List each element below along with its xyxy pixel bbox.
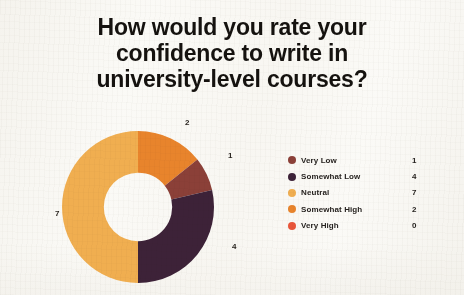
page-title: How would you rate your confidence to wr… [0, 14, 464, 92]
legend-swatch-somewhat-high [288, 205, 296, 213]
slice-label-somewhat-high: 2 [185, 118, 189, 127]
slice-label-very-low: 1 [228, 151, 232, 160]
legend-swatch-very-high [288, 222, 296, 230]
slide-canvas: How would you rate your confidence to wr… [0, 0, 464, 295]
legend-value-very-high: 0 [412, 221, 438, 230]
legend-item-somewhat-low[interactable]: Somewhat Low 4 [288, 168, 438, 184]
legend-swatch-somewhat-low [288, 173, 296, 181]
legend-item-somewhat-high[interactable]: Somewhat High 2 [288, 201, 438, 217]
donut-slice-neutral[interactable] [62, 131, 138, 283]
legend-swatch-neutral [288, 189, 296, 197]
title-line-1: How would you rate your [0, 14, 464, 40]
slice-label-somewhat-low: 4 [232, 242, 236, 251]
slice-label-neutral: 7 [55, 209, 59, 218]
legend-label-somewhat-low: Somewhat Low [301, 172, 412, 181]
legend-value-somewhat-high: 2 [412, 205, 438, 214]
legend-item-very-low[interactable]: Very Low 1 [288, 152, 438, 168]
donut-chart-svg [62, 130, 252, 285]
legend-label-somewhat-high: Somewhat High [301, 205, 412, 214]
donut-slice-somewhat-low[interactable] [138, 190, 214, 283]
legend-value-neutral: 7 [412, 188, 438, 197]
title-line-3: university-level courses? [0, 66, 464, 92]
donut-chart [62, 130, 252, 285]
legend-value-somewhat-low: 4 [412, 172, 438, 181]
legend-item-neutral[interactable]: Neutral 7 [288, 185, 438, 201]
legend-item-very-high[interactable]: Very High 0 [288, 218, 438, 234]
legend-label-very-low: Very Low [301, 156, 412, 165]
chart-legend: Very Low 1 Somewhat Low 4 Neutral 7 Some… [288, 152, 438, 234]
legend-value-very-low: 1 [412, 156, 438, 165]
title-line-2: confidence to write in [0, 40, 464, 66]
legend-label-neutral: Neutral [301, 188, 412, 197]
legend-swatch-very-low [288, 156, 296, 164]
donut-slice-group [62, 131, 214, 283]
legend-label-very-high: Very High [301, 221, 412, 230]
